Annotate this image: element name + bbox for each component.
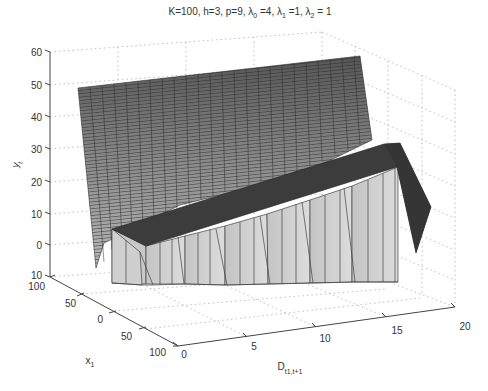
svg-text:20: 20: [459, 321, 471, 332]
svg-text:50: 50: [65, 298, 77, 309]
surface-plot-figure: K=100, h=3, p=9, λ0 =4, λ1 =1, λ2 = 1: [0, 0, 488, 391]
svg-text:10: 10: [319, 333, 331, 344]
svg-text:100: 100: [149, 347, 166, 358]
svg-text:50: 50: [121, 331, 133, 342]
z-axis-ticks: [45, 50, 50, 277]
z-axis-tick-labels: 60 50 40 30 20 10 0 10: [31, 47, 43, 281]
svg-text:20: 20: [31, 177, 43, 188]
svg-text:50: 50: [31, 80, 43, 91]
svg-text:10: 10: [31, 209, 43, 220]
z-axis-label: yt: [9, 159, 23, 169]
svg-text:15: 15: [391, 325, 403, 336]
svg-text:0: 0: [181, 349, 187, 360]
svg-text:30: 30: [31, 144, 43, 155]
svg-text:100: 100: [28, 281, 45, 292]
svg-text:5: 5: [251, 341, 257, 352]
svg-text:10: 10: [31, 270, 43, 281]
chart-title: K=100, h=3, p=9, λ0 =4, λ1 =1, λ2 = 1: [169, 6, 332, 19]
svg-text:0: 0: [97, 314, 103, 325]
d-axis-tick-labels: 0 5 10 15 20: [181, 321, 471, 360]
svg-text:60: 60: [31, 47, 43, 58]
svg-text:40: 40: [31, 112, 43, 123]
d-axis-label: Dt1,t+1: [278, 361, 303, 375]
svg-text:0: 0: [36, 240, 42, 251]
d-axis-ticks: [173, 303, 455, 346]
x1-axis-label: x1: [86, 355, 95, 368]
x1-axis-tick-labels: 100 50 0 50 100: [28, 281, 166, 358]
